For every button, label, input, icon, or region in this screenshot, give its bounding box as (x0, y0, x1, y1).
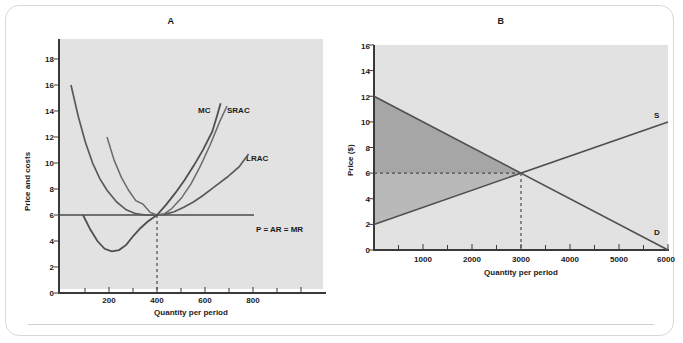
panel-a-srac-curve (107, 106, 227, 215)
panel-a: A Price and costs Quantity per period 0 … (6, 6, 336, 337)
panel-a-lrac-polyline (71, 85, 249, 215)
panel-b-svg (336, 6, 681, 337)
panel-a-mc-curve (83, 103, 221, 251)
figure-card: A Price and costs Quantity per period 0 … (5, 5, 674, 336)
panel-b: B Price ($) Quantity per period 0 2 4 6 … (336, 6, 681, 337)
panel-a-svg (6, 6, 336, 337)
figure-bottom-divider (28, 324, 654, 325)
